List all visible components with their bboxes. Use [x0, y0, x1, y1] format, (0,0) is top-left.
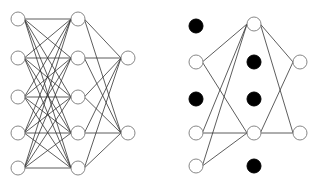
neuron-node: [71, 51, 85, 65]
diagram-canvas: [0, 0, 319, 190]
neuron-node: [293, 126, 307, 140]
connection-edge: [84, 58, 121, 168]
neuron-node: [121, 51, 135, 65]
connection-edge: [202, 24, 247, 62]
dropped-neuron-node: [247, 159, 261, 173]
standard-network: [11, 12, 135, 175]
connection-edge: [84, 19, 121, 58]
neuron-node: [11, 90, 25, 104]
neuron-node: [71, 90, 85, 104]
neuron-node: [71, 12, 85, 26]
neuron-node: [11, 12, 25, 26]
neuron-node: [189, 126, 203, 140]
dropout-network-nodes: [189, 17, 307, 173]
connection-edge: [84, 19, 121, 133]
neuron-node: [247, 126, 261, 140]
neuron-node: [121, 126, 135, 140]
neuron-node: [189, 159, 203, 173]
neuron-node: [11, 51, 25, 65]
dropped-neuron-node: [189, 92, 203, 106]
dropped-neuron-node: [247, 55, 261, 69]
connection-edge: [260, 24, 293, 62]
connection-edge: [202, 24, 247, 133]
neural-network-diagram: [0, 0, 319, 190]
connection-edge: [260, 62, 293, 133]
connection-edge: [202, 62, 247, 133]
connection-edge: [260, 24, 293, 133]
neuron-node: [247, 17, 261, 31]
neuron-node: [71, 161, 85, 175]
neuron-node: [11, 161, 25, 175]
neuron-node: [293, 55, 307, 69]
neuron-node: [11, 126, 25, 140]
connection-edge: [202, 133, 247, 166]
connection-edge: [84, 58, 121, 97]
dropped-neuron-node: [247, 92, 261, 106]
dropout-network-edges: [202, 24, 293, 166]
connection-edge: [202, 24, 247, 166]
neuron-node: [189, 55, 203, 69]
dropout-network: [189, 17, 307, 173]
dropped-neuron-node: [189, 19, 203, 33]
neuron-node: [71, 126, 85, 140]
